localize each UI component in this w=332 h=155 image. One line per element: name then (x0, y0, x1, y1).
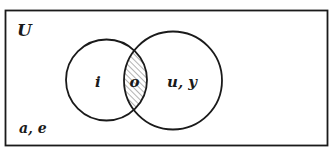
intersection-label: o (130, 73, 140, 91)
universe-label: U (17, 20, 33, 40)
outside-elements-label: a, e (19, 120, 47, 136)
left-only-label: i (95, 73, 101, 91)
right-only-label: u, y (167, 73, 198, 91)
venn-diagram-canvas: U i o u, y a, e (0, 0, 332, 155)
venn-diagram: U i o u, y a, e (0, 0, 332, 155)
